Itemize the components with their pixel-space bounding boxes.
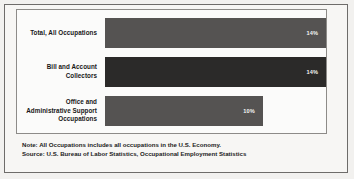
bar-category-label-line: Administrative Support [17, 107, 97, 116]
bar-track: 10% [105, 93, 326, 129]
bar-category-label-line: Bill and Account [17, 63, 97, 72]
bar-value-label: 14% [307, 30, 327, 36]
bar-row: Total, All Occupations 14% [17, 15, 326, 51]
bar-total-all-occupations: 14% [105, 18, 326, 48]
bar-category-label: Bill and Account Collectors [17, 63, 105, 80]
bar-track: 14% [105, 15, 326, 51]
bar-category-label: Office and Administrative Support Occupa… [17, 98, 105, 124]
note-line: Note: All Occupations includes all occup… [22, 140, 332, 149]
source-line: Source: U.S. Bureau of Labor Statistics,… [22, 149, 332, 158]
bar-track: 14% [105, 54, 326, 90]
bar-category-label-line: Collectors [17, 72, 97, 81]
bar-bill-and-account-collectors: 14% [105, 57, 326, 87]
bar-office-and-administrative-support-occupations: 10% [105, 96, 263, 126]
bar-category-label-line: Office and [17, 98, 97, 107]
figure-canvas: Total, All Occupations 14% Bill and Acco… [0, 0, 354, 179]
bar-value-label: 14% [307, 69, 327, 75]
bar-row: Bill and Account Collectors 14% [17, 54, 326, 90]
plot-area: Total, All Occupations 14% Bill and Acco… [16, 9, 327, 134]
figure-notes: Note: All Occupations includes all occup… [22, 140, 332, 159]
bar-category-label-line: Occupations [17, 115, 97, 124]
bar-row: Office and Administrative Support Occupa… [17, 93, 326, 129]
bar-category-label-line: Total, All Occupations [17, 29, 97, 38]
bar-category-label: Total, All Occupations [17, 29, 105, 38]
bar-value-label: 10% [243, 108, 263, 114]
